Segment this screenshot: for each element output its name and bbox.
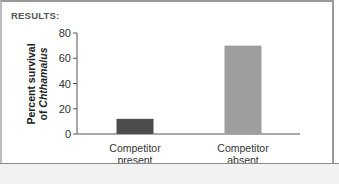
bar-2: [225, 46, 262, 134]
axes: 020406080: [59, 27, 300, 140]
caption-band: [0, 163, 339, 184]
y-tick-label: 20: [59, 103, 71, 115]
bar-chart: Percent survival of Chthamalus 020406080…: [0, 0, 339, 184]
category-label-line1: Competitor: [109, 142, 161, 154]
bar-1: [117, 119, 154, 134]
bars: [117, 46, 262, 134]
category-label-line1: Competitor: [217, 142, 269, 154]
y-axis-title-line2: of Chthamalus: [37, 47, 49, 120]
y-axis-title-species: Chthamalus: [37, 47, 49, 107]
y-axis-title: Percent survival of Chthamalus: [25, 43, 49, 124]
y-tick-label: 40: [59, 78, 71, 90]
y-tick-label: 80: [59, 27, 71, 39]
y-axis-title-line1: Percent survival: [25, 43, 37, 124]
y-axis-title-prefix: of: [37, 108, 49, 121]
y-tick-label: 60: [59, 52, 71, 64]
y-tick-label: 0: [65, 128, 71, 140]
